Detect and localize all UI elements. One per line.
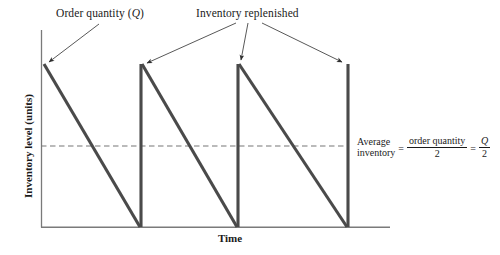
inventory-sawtooth-diagram: Order quantity (Q) Inventory replenished…	[0, 0, 500, 255]
q-over-two-fraction: Q 2	[479, 135, 490, 159]
order-quantity-fraction: order quantity 2	[407, 135, 467, 159]
average-inventory-equation: Average inventory = order quantity 2 = Q…	[357, 135, 490, 159]
leader-inventory-replenished-3	[262, 23, 342, 62]
fraction-numerator: order quantity	[407, 135, 467, 147]
diagram-canvas	[0, 0, 500, 255]
equals-sign-2: =	[470, 143, 476, 154]
leader-inventory-replenished-2	[241, 23, 248, 60]
annotation-leaders	[49, 23, 342, 63]
y-axis-label: Inventory level (units)	[22, 76, 34, 216]
order-quantity-close-paren: )	[140, 7, 144, 19]
equals-sign-1: =	[398, 143, 404, 154]
leader-order-quantity	[49, 24, 99, 62]
average-inventory-term: Average inventory	[357, 136, 395, 158]
order-quantity-symbol: Q	[132, 7, 140, 19]
x-axis-label: Time	[170, 232, 290, 244]
q-fraction-denominator: 2	[480, 148, 489, 160]
q-fraction-numerator: Q	[479, 135, 490, 147]
annotation-inventory-replenished: Inventory replenished	[196, 7, 299, 19]
average-inventory-line-1: Average	[357, 136, 390, 147]
fraction-denominator: 2	[433, 148, 442, 160]
leader-inventory-replenished-1	[147, 23, 236, 63]
annotation-order-quantity: Order quantity (Q)	[56, 7, 144, 19]
average-inventory-line-2: inventory	[357, 147, 395, 158]
order-quantity-text: Order quantity (	[56, 7, 132, 19]
